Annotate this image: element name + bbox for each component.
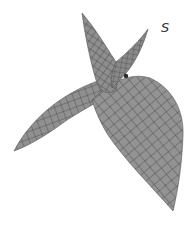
right-lobe — [92, 76, 183, 211]
surface-label: S — [161, 21, 169, 34]
singular-point — [124, 74, 128, 78]
